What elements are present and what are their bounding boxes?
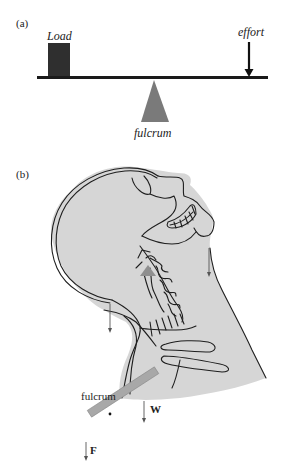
lever-beam [37,76,268,79]
load-label: Load [46,29,73,43]
f-arrow-icon [84,442,88,461]
lever-pivot-dot [109,413,112,416]
effort-arrow-icon [245,42,254,77]
fulcrum-label: fulcrum [134,126,172,140]
fulcrum-triangle [141,80,169,122]
lever-figure: (a) Load effort fulcrum (b) [0,0,296,470]
panel-a-label: (a) [16,17,29,30]
load-box [48,43,70,78]
w-label: W [150,403,161,415]
head-neck-silhouette [51,166,266,399]
panel-a: (a) Load effort fulcrum [16,17,268,140]
fulcrum-label-b: fulcrum [81,390,116,402]
effort-label: effort [238,25,265,39]
panel-b: (b) [16,166,266,461]
panel-b-label: (b) [16,168,29,181]
f-label: F [90,444,97,456]
w-arrow-icon [142,401,146,423]
